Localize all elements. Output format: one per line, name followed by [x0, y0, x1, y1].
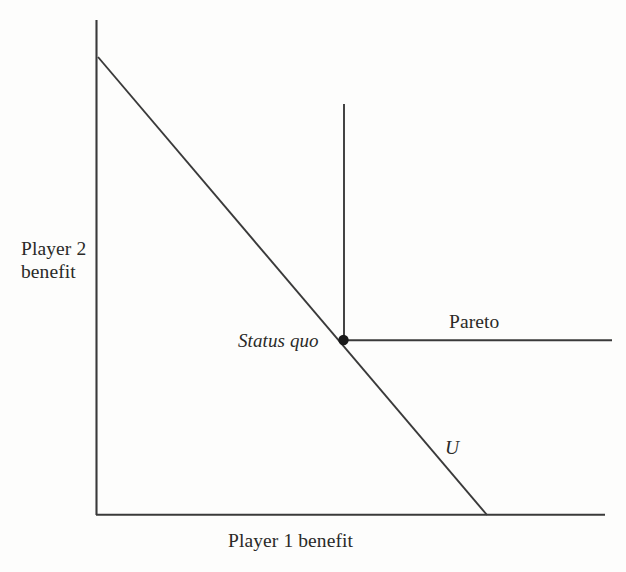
utility-frontier-label: U: [445, 436, 459, 459]
status-quo-point-marker: [338, 335, 348, 345]
diagram-canvas: [0, 0, 626, 572]
utility-frontier-line: [98, 57, 487, 515]
y-axis-label: Player 2benefit: [21, 237, 86, 283]
bargaining-diagram-figure: Player 2benefit Player 1 benefit Status …: [0, 0, 626, 572]
pareto-label: Pareto: [449, 310, 499, 333]
y-axis-label-line1: Player 2: [21, 238, 86, 259]
x-axis-label: Player 1 benefit: [228, 529, 353, 552]
y-axis-label-line2: benefit: [21, 260, 86, 283]
status-quo-label: Status quo: [238, 330, 319, 352]
